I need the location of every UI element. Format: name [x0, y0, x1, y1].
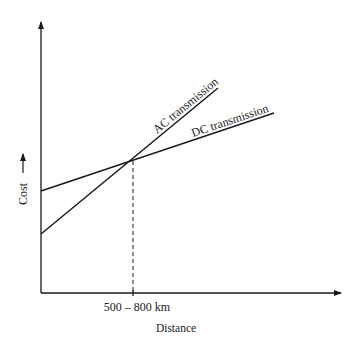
y-axis-title: Cost — [16, 182, 30, 205]
ac-transmission-line — [41, 88, 218, 234]
break-even-distance-label: 500 – 800 km — [104, 300, 171, 314]
x-axis-title: Distance — [156, 322, 196, 334]
dc-transmission-label: DC transmission — [190, 101, 271, 140]
cost-distance-diagram: AC transmission DC transmission 500 – 80… — [0, 0, 361, 342]
